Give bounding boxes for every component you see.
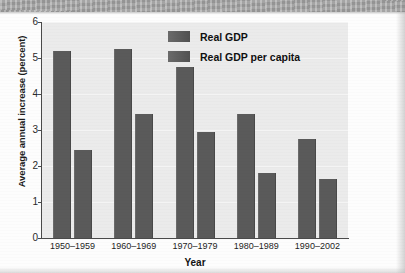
y-tick-label: 4: [4, 89, 38, 99]
x-tick-label: 1980–1989: [226, 241, 287, 251]
legend-label-real-gdp-per-capita: Real GDP per capita: [200, 51, 300, 63]
legend-item-real-gdp: Real GDP: [168, 28, 300, 45]
scan-edge-shadow-bottom: [0, 267, 405, 273]
bar: [74, 150, 92, 238]
x-axis-line: [41, 238, 349, 239]
bar-chart-figure: Average annual increase (percent) 654321…: [0, 14, 405, 273]
chart-legend: Real GDP Real GDP per capita: [168, 28, 300, 68]
y-tick-mark: [38, 166, 42, 167]
bar: [114, 49, 132, 238]
bar: [135, 114, 153, 238]
bar: [237, 114, 255, 238]
scan-edge-shadow-right: [396, 12, 405, 273]
x-tick-label: 1950–1959: [42, 241, 103, 251]
y-tick-mark: [38, 94, 42, 95]
y-tick-mark: [38, 238, 42, 239]
y-tick-label: 2: [4, 161, 38, 171]
legend-label-real-gdp: Real GDP: [200, 31, 248, 43]
x-tick-label: 1970–1979: [164, 241, 225, 251]
legend-swatch-real-gdp-per-capita: [168, 51, 190, 62]
y-tick-label: 0: [4, 233, 38, 243]
y-tick-mark: [38, 58, 42, 59]
bar: [319, 179, 337, 238]
y-axis-tick-labels: 6543210: [0, 22, 38, 238]
y-tick-label: 1: [4, 197, 38, 207]
bar: [298, 139, 316, 238]
y-tick-label: 3: [4, 125, 38, 135]
y-tick-mark: [38, 130, 42, 131]
bar: [176, 67, 194, 238]
y-tick-mark: [38, 202, 42, 203]
legend-item-real-gdp-per-capita: Real GDP per capita: [168, 48, 300, 65]
bar: [53, 51, 71, 238]
x-axis-tick-labels: 1950–19591960–19691970–19791980–19891990…: [42, 241, 348, 257]
scan-banner-strip: [0, 0, 405, 12]
y-tick-label: 6: [4, 17, 38, 27]
x-tick-label: 1990–2002: [287, 241, 348, 251]
y-tick-label: 5: [4, 53, 38, 63]
bar: [258, 173, 276, 238]
figure-page: Average annual increase (percent) 654321…: [0, 0, 405, 273]
legend-swatch-real-gdp: [168, 31, 190, 42]
y-tick-mark: [38, 22, 42, 23]
x-tick-label: 1960–1969: [103, 241, 164, 251]
bar: [197, 132, 215, 238]
